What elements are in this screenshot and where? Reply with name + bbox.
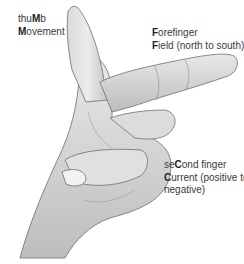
forefinger-label-line2: Field (north to south) xyxy=(152,40,244,53)
forefinger-label: Forefinger Field (north to south) xyxy=(152,27,244,52)
thumb-label: thuMb Movement xyxy=(18,13,65,38)
second-finger-label-line1: seCond finger xyxy=(164,159,244,172)
second-finger-label-line2: Current (positive to xyxy=(164,172,244,185)
forefinger-label-line1: Forefinger xyxy=(152,27,244,40)
second-finger-label: seCond finger Current (positive to negat… xyxy=(164,159,244,197)
second-finger-label-line3: negative) xyxy=(164,184,244,197)
forefinger-shape xyxy=(100,54,237,112)
thumb-label-line1: thuMb xyxy=(18,13,65,26)
thumb-label-line2: Movement xyxy=(18,26,65,39)
